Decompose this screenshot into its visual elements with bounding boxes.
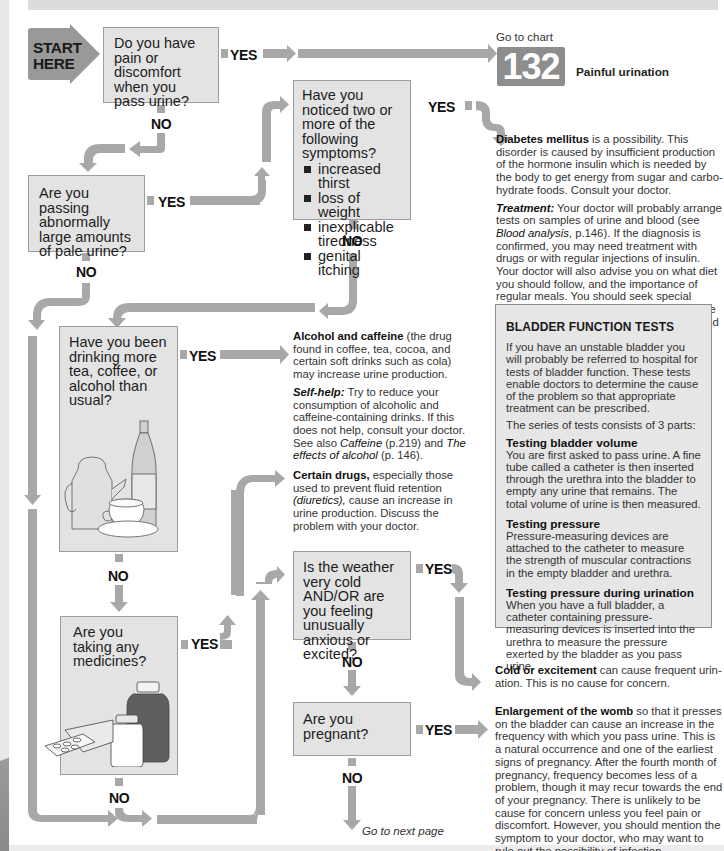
chart-title-link[interactable]: Painful urination <box>576 65 669 79</box>
question-box-pregnant[interactable]: Are you pregnant? <box>293 702 411 756</box>
answer-heading: Cold or excitement <box>495 664 597 676</box>
question-box-medicines[interactable]: Are you taking any medicines? <box>60 616 178 775</box>
treatment-label: Treatment: <box>496 202 554 214</box>
question-box-weather-anxiety[interactable]: Is the weather very cold AND/OR are you … <box>293 551 411 640</box>
yes-label: YES <box>425 722 452 738</box>
question-text: Are you pregnant? <box>303 711 368 742</box>
answer-heading: Alcohol and caffeine <box>293 330 403 342</box>
infobox-title: BLADDER FUNCTION TESTS <box>506 321 701 333</box>
no-label: NO <box>109 790 129 806</box>
question-text: Are you taking any medicines? <box>73 625 165 669</box>
answer-drugs: Certain drugs, especially those used to … <box>293 469 473 538</box>
question-box-pain[interactable]: Do you have pain or discomfort when you … <box>103 27 219 103</box>
question-text: Have you noticed two or more of the foll… <box>302 88 402 161</box>
cross-reference: Caffeine <box>340 437 382 449</box>
self-help-label: Self-help: <box>293 386 344 398</box>
term: (diuretics), <box>293 494 346 506</box>
goto-chart-label: Go to chart <box>496 31 553 43</box>
answer-heading: Enlargement of the womb <box>495 705 633 717</box>
no-label: NO <box>342 233 362 249</box>
chart-number-badge[interactable]: 132 <box>497 47 565 86</box>
cross-reference: Blood analysis <box>496 227 569 239</box>
section-title: Testing pressure during urination <box>506 587 701 599</box>
answer-alcohol: Alcohol and caffeine (the drug found in … <box>293 330 473 467</box>
start-here-label: START HERE <box>33 40 82 72</box>
yes-label: YES <box>428 99 455 115</box>
question-text: Have you been drinking more tea, coffee,… <box>69 335 168 408</box>
question-box-pale-urine[interactable]: Are you passing abnormally large amounts… <box>28 175 145 252</box>
symptom-item: genital itching <box>302 249 402 278</box>
symptom-list: increased thirst loss of weight inexplic… <box>302 162 402 278</box>
no-label: NO <box>342 654 362 670</box>
no-label: NO <box>151 116 171 132</box>
yes-label: YES <box>158 194 185 210</box>
answer-heading: Diabetes mellitus <box>496 133 589 145</box>
no-label: NO <box>342 770 362 786</box>
question-text: Do you have pain or discomfort when you … <box>114 35 195 109</box>
question-box-symptoms[interactable]: Have you noticed two or more of the foll… <box>293 80 411 220</box>
answer-womb: Enlargement of the womb so that it press… <box>495 705 724 851</box>
medicine-bottles-illustration <box>43 672 183 767</box>
answer-heading: Certain drugs, <box>293 469 370 481</box>
bladder-function-tests-box: BLADDER FUNCTION TESTS If you have an un… <box>495 304 712 628</box>
question-box-drinking[interactable]: Have you been drinking more tea, coffee,… <box>59 326 178 552</box>
section-title: Testing bladder volume <box>506 437 701 449</box>
symptom-item: increased thirst <box>302 162 402 191</box>
next-page-link[interactable]: Go to next page <box>362 825 444 837</box>
yes-label: YES <box>425 561 452 577</box>
question-text: Are you passing abnormally large amounts… <box>39 185 131 259</box>
section-title: Testing pressure <box>506 518 701 530</box>
symptom-item: loss of weight <box>302 191 402 220</box>
no-label: NO <box>108 568 128 584</box>
yes-label: YES <box>189 348 216 364</box>
coffee-pot-bottle-cup-illustration <box>64 399 174 549</box>
yes-label: YES <box>191 636 218 652</box>
yes-label: YES <box>230 47 257 63</box>
no-label: NO <box>76 264 96 280</box>
answer-cold: Cold or excitement can cause frequent ur… <box>495 664 724 694</box>
